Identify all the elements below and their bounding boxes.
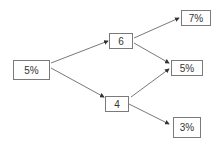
node-upup: 7% <box>181 10 211 26</box>
edge-down-downdown <box>129 104 169 124</box>
edge-down-mid <box>131 69 169 97</box>
node-mid: 5% <box>171 60 203 76</box>
edge-root-up <box>51 41 108 63</box>
node-down: 4 <box>105 96 129 112</box>
node-up: 6 <box>109 33 133 49</box>
edge-root-down <box>51 68 104 97</box>
node-downdown: 3% <box>173 117 201 138</box>
edge-up-upup <box>134 18 179 38</box>
edge-up-mid <box>134 43 169 63</box>
node-root: 5% <box>13 60 50 80</box>
